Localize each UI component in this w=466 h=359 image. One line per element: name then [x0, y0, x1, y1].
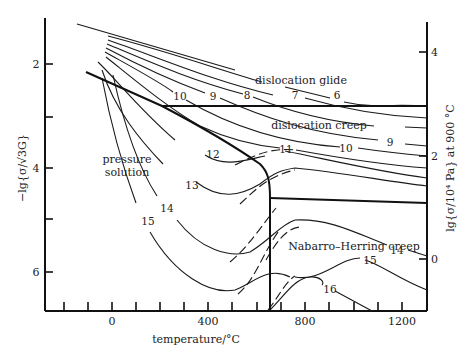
contour-10 [105, 52, 427, 156]
y-tick-label: 4 [33, 162, 40, 175]
svg-text:9: 9 [210, 90, 217, 102]
contour-13 [102, 70, 427, 194]
y-right-tick-label: 0 [431, 253, 438, 266]
svg-text:10: 10 [339, 142, 352, 154]
x-tick-label: 0 [109, 315, 116, 328]
svg-text:7: 7 [292, 89, 299, 101]
contour-16 [270, 277, 372, 311]
svg-text:16: 16 [323, 283, 337, 295]
svg-text:15: 15 [363, 254, 376, 266]
y-axis-left-title: −lg{σ/√3G} [16, 134, 29, 202]
boundary-nh-creep [270, 198, 427, 203]
y-right-tick-label: 2 [431, 150, 438, 163]
y-tick-label: 6 [33, 266, 40, 279]
svg-text:8: 8 [244, 89, 251, 101]
contour-15 [102, 78, 427, 291]
region-dislocation-creep: dislocation creep [271, 119, 367, 132]
region-nabarro-herring: Nabarro–Herring creep [288, 240, 420, 253]
dashed-contours [230, 150, 300, 310]
mechanism-boundaries [86, 72, 427, 311]
contour-9 [106, 48, 427, 146]
svg-text:12: 12 [206, 148, 219, 160]
x-tick-label: 400 [198, 315, 219, 328]
x-axis-title: temperature/°C [152, 333, 240, 346]
svg-text:6: 6 [334, 89, 341, 101]
svg-text:11: 11 [279, 143, 292, 155]
svg-text:15: 15 [141, 215, 154, 227]
svg-text:14: 14 [160, 202, 174, 214]
svg-text:10: 10 [173, 90, 186, 102]
y-right-tick-label: 4 [431, 46, 438, 59]
y-axis-right-title: lg{σ/10⁴ Pa} at 900 °C [444, 104, 457, 232]
region-dislocation-glide: dislocation glide [255, 74, 347, 87]
region-pressure-solution-line2: solution [105, 166, 150, 179]
contour-top [77, 24, 235, 70]
svg-text:13: 13 [185, 179, 198, 191]
region-pressure-solution-line1: pressure [103, 153, 152, 166]
y-tick-label: 2 [33, 58, 40, 71]
x-tick-label: 1200 [388, 315, 416, 328]
svg-text:9: 9 [387, 136, 394, 148]
left-ticks: 2 4 6 [33, 58, 54, 279]
deformation-mechanism-map: 2 4 6 4 2 0 0 400 800 1200 temperature/°… [0, 0, 466, 359]
x-tick-label: 800 [295, 315, 316, 328]
